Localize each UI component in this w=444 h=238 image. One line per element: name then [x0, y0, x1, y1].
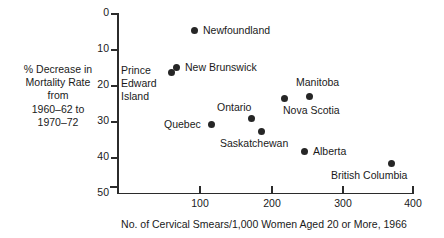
x-tick-200 — [271, 186, 273, 194]
x-tick-300 — [342, 186, 344, 194]
data-label-saskatchewan: Saskatchewan — [220, 137, 288, 149]
x-axis-line — [117, 193, 414, 195]
data-point-ontario[interactable] — [248, 115, 255, 122]
data-point-quebec[interactable] — [208, 121, 215, 128]
data-label-alberta: Alberta — [313, 145, 346, 157]
data-label-nova-scotia: Nova Scotia — [283, 104, 340, 116]
y-tick-label-20: 20 — [82, 79, 109, 90]
x-tick-100 — [199, 186, 201, 194]
data-point-newfoundland[interactable] — [191, 27, 198, 34]
y-axis-line — [117, 13, 119, 194]
y-tick-label-0: 0 — [82, 7, 109, 18]
data-label-quebec: Quebec — [164, 118, 201, 130]
data-point-alberta[interactable] — [301, 148, 308, 155]
data-label-ontario: Ontario — [217, 101, 251, 113]
data-point-saskatchewan[interactable] — [258, 128, 265, 135]
y-tick-label-30: 30 — [82, 115, 109, 126]
y-tick-30 — [111, 121, 118, 123]
y-tick-20 — [111, 85, 118, 87]
y-tick-0 — [111, 13, 118, 15]
x-tick-label-400: 400 — [393, 198, 433, 209]
data-point-manitoba[interactable] — [306, 93, 313, 100]
data-label-british-columbia: British Columbia — [331, 169, 407, 181]
data-label-prince-edward-island: Prince Edward Island — [121, 64, 167, 104]
data-point-british-columbia[interactable] — [388, 160, 395, 167]
y-tick-label-50: 50 — [82, 187, 109, 198]
x-axis-title: No. of Cervical Smears/1,000 Women Aged … — [84, 218, 444, 230]
data-label-manitoba: Manitoba — [296, 76, 339, 88]
scatter-chart: % Decrease in Mortality Rate from 1960–6… — [0, 0, 444, 238]
x-tick-label-200: 200 — [252, 198, 292, 209]
y-tick-label-40: 40 — [82, 151, 109, 162]
y-tick-label-10: 10 — [82, 43, 109, 54]
x-tick-400 — [412, 186, 414, 194]
data-label-newfoundland: Newfoundland — [203, 24, 270, 36]
y-tick-40 — [111, 157, 118, 159]
x-tick-label-100: 100 — [180, 198, 220, 209]
x-tick-label-300: 300 — [323, 198, 363, 209]
data-point-prince-edward-island[interactable] — [168, 69, 175, 76]
y-tick-10 — [111, 49, 118, 51]
data-point-nova-scotia[interactable] — [281, 95, 288, 102]
data-label-new-brunswick: New Brunswick — [185, 61, 257, 73]
y-tick-50 — [110, 186, 119, 188]
